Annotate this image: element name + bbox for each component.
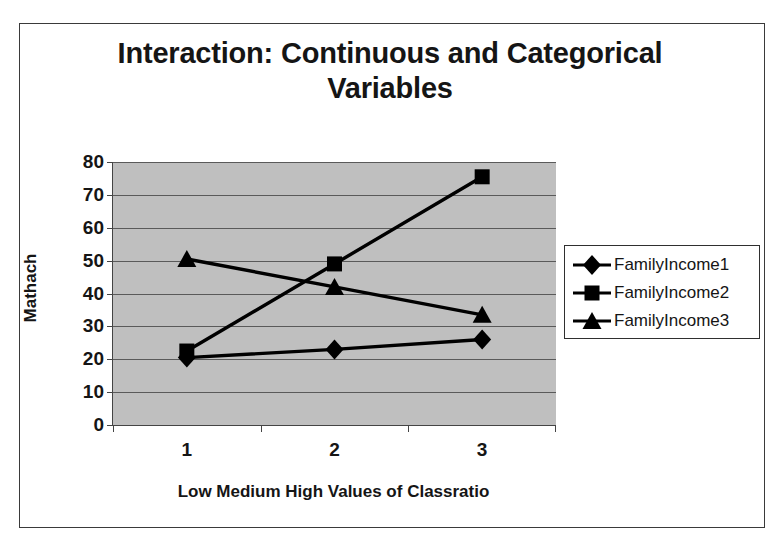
x-tick-label: 2 (329, 439, 340, 461)
diamond-marker (326, 339, 344, 359)
legend-label: FamilyIncome2 (614, 283, 729, 303)
legend: FamilyIncome1FamilyIncome2FamilyIncome3 (564, 245, 760, 339)
y-tick-label: 40 (83, 283, 104, 305)
chart-screenshot: Interaction: Continuous and Categorical … (0, 0, 783, 549)
y-tick-label: 80 (83, 151, 104, 173)
triangle-marker (177, 250, 196, 267)
series-plot (113, 162, 556, 425)
x-tick-mark (113, 425, 114, 432)
legend-item-3[interactable]: FamilyIncome3 (565, 307, 759, 335)
diamond-icon (572, 255, 612, 275)
square-marker (475, 169, 490, 184)
y-tick-label: 20 (83, 348, 104, 370)
square-marker (327, 256, 342, 271)
square-marker (585, 286, 600, 301)
square-marker (179, 344, 194, 359)
y-tick-label: 10 (83, 381, 104, 403)
y-tick-label: 60 (83, 217, 104, 239)
x-tick-label: 1 (182, 439, 193, 461)
plot-area: 01020304050607080 123 (112, 162, 556, 426)
legend-item-1[interactable]: FamilyIncome1 (565, 251, 759, 279)
diamond-marker (473, 330, 491, 350)
y-tick-label: 0 (93, 414, 104, 436)
legend-label: FamilyIncome1 (614, 255, 729, 275)
y-axis-title: Mathach (21, 238, 41, 338)
x-tick-mark (555, 425, 556, 432)
x-tick-mark (261, 425, 262, 432)
diamond-marker (583, 255, 601, 275)
series-2 (179, 169, 489, 358)
chart-title: Interaction: Continuous and Categorical … (60, 36, 720, 107)
series-1 (178, 330, 491, 368)
square-icon (572, 283, 612, 303)
y-tick-label: 70 (83, 184, 104, 206)
legend-label: FamilyIncome3 (614, 311, 729, 331)
y-tick-label: 50 (83, 250, 104, 272)
x-axis-title: Low Medium High Values of Classratio (112, 482, 555, 502)
triangle-icon (572, 311, 612, 331)
x-tick-label: 3 (477, 439, 488, 461)
y-tick-label: 30 (83, 315, 104, 337)
legend-item-2[interactable]: FamilyIncome2 (565, 279, 759, 307)
x-tick-mark (408, 425, 409, 432)
